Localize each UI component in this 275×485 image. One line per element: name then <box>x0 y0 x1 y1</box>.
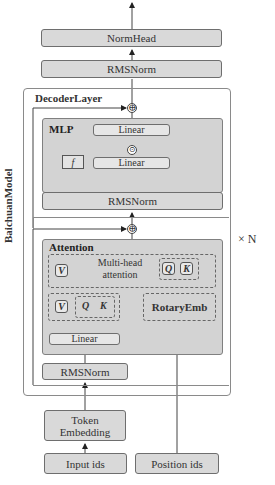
value-bottom-box: V <box>55 300 68 313</box>
key-bottom-label: K <box>100 300 107 311</box>
decoder-layer-label: DecoderLayer <box>35 92 102 104</box>
input-ids-label: Input ids <box>66 458 105 470</box>
mlp-title: MLP <box>49 123 73 135</box>
repeat-count-text: × N <box>238 232 256 246</box>
mlp-linear-in-label: Linear <box>118 157 144 169</box>
qk-bottom-group <box>75 296 115 318</box>
input-rmsnorm-label: RMSNorm <box>61 366 110 378</box>
token-embedding-line1: Token <box>71 414 98 426</box>
mlp-linear-out: Linear <box>93 124 170 136</box>
post-attention-rmsnorm-label: RMSNorm <box>108 195 157 207</box>
multihead-label-line1: Multi-head <box>90 257 150 269</box>
normhead-label: NormHead <box>107 32 156 44</box>
token-embedding-box: Token Embedding <box>44 410 126 441</box>
position-ids-label: Position ids <box>151 458 203 470</box>
attention-linear-box: Linear <box>49 333 120 345</box>
residual-frame-bottom <box>33 385 229 386</box>
normhead-box: NormHead <box>41 29 222 47</box>
mlp-linear-in: Linear <box>93 157 170 169</box>
key-top-box: K <box>180 262 193 275</box>
baichuan-model-label: BaichuanModel <box>2 168 14 243</box>
token-embedding-line2: Embedding <box>60 426 111 438</box>
value-top-box: V <box>55 264 68 277</box>
elementwise-multiply-icon: ⊙ <box>127 145 137 155</box>
activation-function-box: f <box>62 155 84 169</box>
query-top-box: Q <box>162 262 175 275</box>
post-attention-rmsnorm-box: RMSNorm <box>42 192 223 210</box>
position-ids-box: Position ids <box>135 453 219 474</box>
attention-linear-label: Linear <box>71 333 97 345</box>
mlp-linear-out-label: Linear <box>118 124 144 136</box>
input-rmsnorm-box: RMSNorm <box>42 363 128 380</box>
rotary-embedding-label: RotaryEmb <box>152 301 208 313</box>
query-bottom-label: Q <box>82 300 89 311</box>
final-rmsnorm-label: RMSNorm <box>107 63 156 75</box>
residual-add-icon-mid: ⊕ <box>127 224 137 234</box>
residual-add-icon-top: ⊕ <box>127 103 137 113</box>
rotary-embedding-group: RotaryEmb <box>143 293 216 321</box>
final-rmsnorm-box: RMSNorm <box>41 60 222 78</box>
repeat-count-label: × N <box>238 232 256 247</box>
multihead-label-line2: attention <box>90 269 150 281</box>
attention-title: Attention <box>49 241 94 253</box>
input-ids-box: Input ids <box>44 453 127 474</box>
